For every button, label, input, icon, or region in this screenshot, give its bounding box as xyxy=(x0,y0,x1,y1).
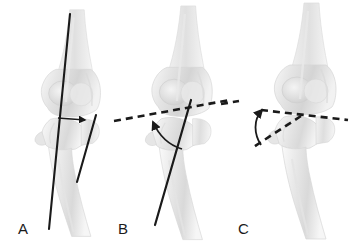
panel-label-c: C xyxy=(238,220,249,237)
panel-label-a: A xyxy=(18,220,28,237)
illustration-svg: A B C xyxy=(0,0,350,247)
figure-canvas: A B C xyxy=(0,0,350,247)
panel-label-b: B xyxy=(118,220,128,237)
